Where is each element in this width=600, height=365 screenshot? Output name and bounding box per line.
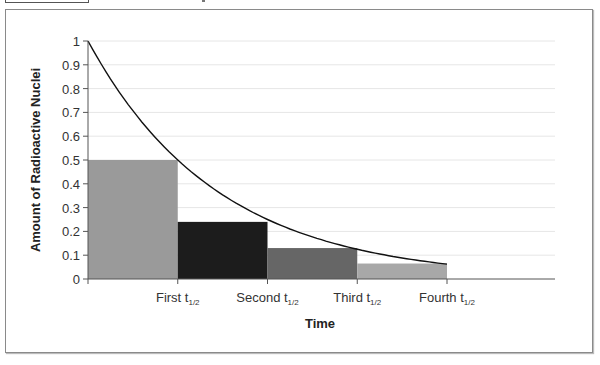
x-tick-label: Fourth t1/2 — [419, 290, 475, 307]
x-tick-label: Second t1/2 — [236, 290, 299, 307]
y-tick-label: 0.5 — [62, 153, 80, 168]
y-tick-label: 0.3 — [62, 201, 80, 216]
x-tick-label: Third t1/2 — [333, 290, 382, 307]
x-axis-title: Time — [305, 316, 335, 331]
x-axis-ticks: First t1/2Second t1/2Third t1/2Fourth t1… — [88, 279, 476, 307]
bar-2 — [178, 222, 268, 279]
y-tick-label: 0.1 — [62, 248, 80, 263]
y-axis-ticks: 00.10.20.30.40.50.60.70.80.91 — [62, 34, 88, 287]
y-tick-label: 1 — [73, 34, 80, 49]
bar-4 — [357, 264, 447, 279]
half-life-chart: 00.10.20.30.40.50.60.70.80.91 First t1/2… — [0, 0, 600, 365]
x-tick-label: First t1/2 — [156, 290, 200, 307]
y-tick-label: 0.4 — [62, 177, 80, 192]
bar-3 — [268, 248, 358, 279]
y-tick-label: 0.2 — [62, 224, 80, 239]
y-axis-title: Amount of Radioactive Nuclei — [28, 68, 43, 252]
y-tick-label: 0.6 — [62, 129, 80, 144]
y-tick-label: 0 — [73, 272, 80, 287]
bar-1 — [88, 160, 178, 279]
y-tick-label: 0.8 — [62, 82, 80, 97]
y-tick-label: 0.7 — [62, 105, 80, 120]
y-tick-label: 0.9 — [62, 58, 80, 73]
